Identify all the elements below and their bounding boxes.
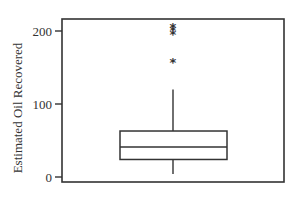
y-tick-label: 200 bbox=[33, 24, 53, 39]
y-axis-title: Estimated Oil Recovered bbox=[10, 42, 25, 173]
y-axis-ticks: 0100200 bbox=[33, 24, 63, 185]
y-tick-label: 100 bbox=[33, 97, 53, 112]
outlier-asterisk-icon: * bbox=[170, 20, 177, 35]
box-plot-series: **** bbox=[120, 20, 227, 174]
iqr-box bbox=[120, 131, 227, 159]
outlier-asterisk-icon: * bbox=[170, 55, 177, 70]
y-tick-label: 0 bbox=[46, 170, 53, 185]
box-plot: 0100200 Estimated Oil Recovered **** bbox=[0, 0, 295, 201]
